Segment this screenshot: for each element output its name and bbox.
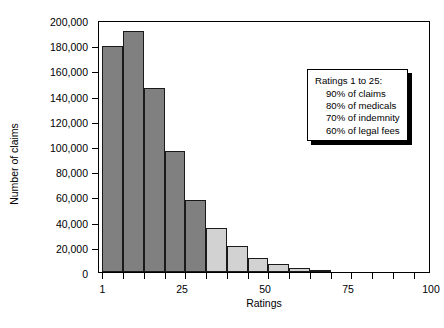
y-tick-mark <box>92 224 99 225</box>
y-tick-label: 80,000 <box>56 167 88 179</box>
annotation-line: 90% of claims <box>326 88 407 100</box>
x-tick-mark <box>185 272 186 279</box>
x-tick-mark <box>206 272 207 279</box>
y-tick-label: 180,000 <box>50 41 88 53</box>
annotation-box: Ratings 1 to 25: 90% of claims80% of med… <box>307 69 408 141</box>
annotation-heading: Ratings 1 to 25: <box>315 75 407 88</box>
plot-area: 020,00040,00060,00080,000100,000120,0001… <box>98 21 430 273</box>
y-tick-label: 60,000 <box>56 192 88 204</box>
x-tick-mark <box>102 272 103 279</box>
y-tick-label: 200,000 <box>50 16 88 28</box>
x-tick-label: 50 <box>259 283 271 295</box>
y-tick-mark <box>92 173 99 174</box>
x-tick-mark <box>289 272 290 279</box>
bar <box>185 200 206 272</box>
x-tick-label: 100 <box>422 283 440 295</box>
x-tick-mark <box>351 272 352 279</box>
x-tick-label: 75 <box>342 283 354 295</box>
bar <box>206 228 227 272</box>
x-tick-mark <box>393 272 394 279</box>
x-tick-mark <box>144 272 145 279</box>
bar <box>248 258 269 272</box>
y-tick-label: 120,000 <box>50 117 88 129</box>
x-tick-mark <box>227 272 228 279</box>
x-tick-mark <box>123 272 124 279</box>
x-tick-mark <box>331 272 332 279</box>
annotation-lines: 90% of claims80% of medicals70% of indem… <box>315 88 407 138</box>
y-tick-label: 20,000 <box>56 243 88 255</box>
annotation-line: 60% of legal fees <box>326 125 407 137</box>
x-tick-mark <box>414 272 415 279</box>
bar <box>227 246 248 272</box>
y-tick-mark <box>92 72 99 73</box>
y-tick-label: 100,000 <box>50 142 88 154</box>
annotation-line: 70% of indemnity <box>326 112 407 124</box>
x-tick-label: 25 <box>176 283 188 295</box>
x-tick-mark <box>165 272 166 279</box>
y-tick-mark <box>92 249 99 250</box>
y-tick-mark <box>92 148 99 149</box>
bar <box>123 31 144 272</box>
y-tick-mark <box>92 98 99 99</box>
x-tick-mark <box>268 272 269 279</box>
annotation-line: 80% of medicals <box>326 100 407 112</box>
bar <box>310 270 331 272</box>
bar <box>144 88 165 272</box>
x-tick-mark <box>372 272 373 279</box>
chart-canvas: Number of claims 020,00040,00060,00080,0… <box>0 0 444 328</box>
y-tick-mark <box>92 198 99 199</box>
x-tick-label: 1 <box>99 283 105 295</box>
y-tick-label: 160,000 <box>50 66 88 78</box>
bar-series <box>99 22 429 272</box>
y-tick-mark <box>92 47 99 48</box>
bar <box>268 264 289 272</box>
x-tick-mark <box>248 272 249 279</box>
y-axis-title: Number of claims <box>8 123 20 205</box>
y-tick-label: 140,000 <box>50 92 88 104</box>
bar <box>289 268 310 272</box>
x-tick-mark <box>310 272 311 279</box>
y-tick-label: 40,000 <box>56 218 88 230</box>
x-axis-title: Ratings <box>246 297 282 309</box>
y-tick-mark <box>92 123 99 124</box>
bar <box>165 151 186 272</box>
bar <box>102 46 123 272</box>
y-tick-label: 0 <box>82 268 88 280</box>
